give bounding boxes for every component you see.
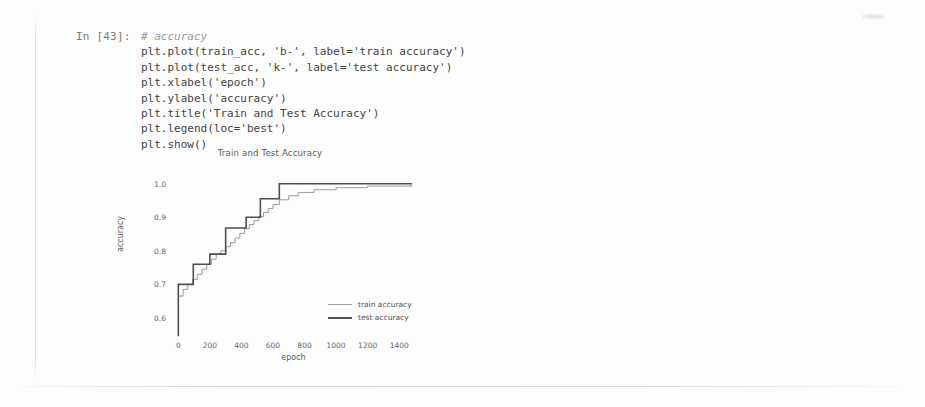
scan-artifact	[862, 14, 884, 19]
legend-label: test accuracy	[358, 313, 409, 322]
series-line	[178, 185, 412, 296]
y-axis-ticks: 0.60.70.80.91.0	[110, 177, 166, 338]
notebook-page: In [43]: # accuracyplt.plot(train_acc, '…	[0, 0, 925, 407]
x-tick-label: 1400	[390, 341, 409, 350]
code-block[interactable]: # accuracyplt.plot(train_acc, 'b-', labe…	[141, 29, 466, 152]
matplotlib-figure: Train and Test Accuracy accuracy 0.60.70…	[110, 148, 430, 373]
code-line-3: plt.xlabel('epoch')	[141, 75, 466, 90]
y-tick-label: 0.9	[154, 213, 166, 222]
x-tick-label: 400	[234, 341, 248, 350]
code-line-0: # accuracy	[141, 29, 466, 44]
cell-prompt-label: In [43]:	[76, 30, 131, 43]
x-tick-label: 0	[176, 341, 181, 350]
chart-title: Train and Test Accuracy	[110, 148, 430, 158]
code-line-6: plt.legend(loc='best')	[141, 121, 466, 136]
x-tick-label: 200	[203, 341, 217, 350]
chart-legend: train accuracytest accuracy	[328, 298, 412, 324]
legend-item: test accuracy	[328, 311, 412, 324]
x-tick-label: 800	[297, 341, 311, 350]
x-axis-label: epoch	[172, 353, 415, 362]
y-tick-label: 0.6	[154, 313, 166, 322]
legend-swatch-icon	[328, 317, 352, 319]
legend-item: train accuracy	[328, 298, 412, 311]
code-line-5: plt.title('Train and Test Accuracy')	[141, 106, 466, 121]
x-tick-label: 600	[266, 341, 280, 350]
x-tick-label: 1200	[358, 341, 377, 350]
y-tick-label: 0.7	[154, 280, 166, 289]
code-line-2: plt.plot(test_acc, 'k-', label='test acc…	[141, 60, 466, 75]
page-bottom-rule	[18, 386, 898, 387]
code-line-4: plt.ylabel('accuracy')	[141, 91, 466, 106]
y-tick-label: 1.0	[154, 179, 166, 188]
legend-label: train accuracy	[358, 300, 412, 309]
x-tick-label: 1000	[327, 341, 346, 350]
legend-swatch-icon	[328, 304, 352, 305]
cell-left-border	[35, 12, 36, 382]
code-line-1: plt.plot(train_acc, 'b-', label='train a…	[141, 44, 466, 59]
y-tick-label: 0.8	[154, 246, 166, 255]
